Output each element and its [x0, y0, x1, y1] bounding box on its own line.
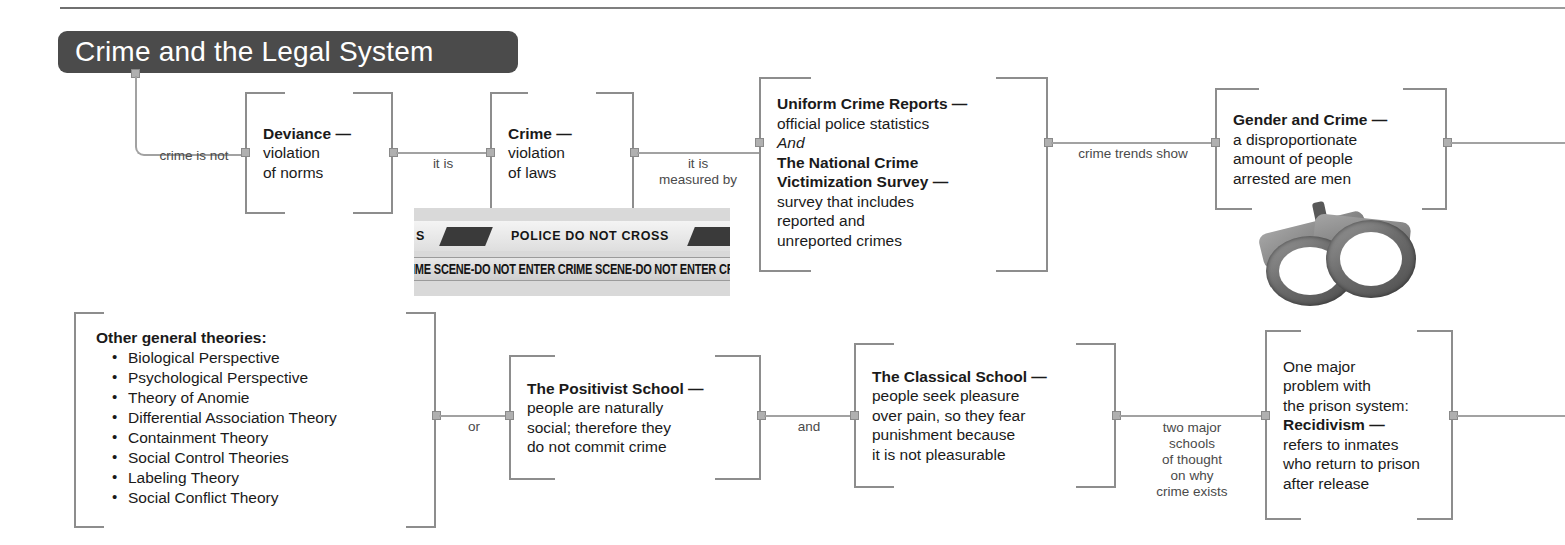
node-uniform-crime-reports[interactable]: Uniform Crime Reports — official police … — [759, 77, 1048, 272]
node-body: Deviance — violation of norms — [245, 92, 393, 214]
node-line: refers to inmates — [1283, 435, 1441, 455]
connector-label-two-major-line1: two major — [1119, 420, 1265, 436]
node-line: Victimization Survey — — [777, 172, 1036, 192]
connector-label-two-major-line4: on why — [1119, 468, 1265, 484]
connector-label-crime-is-not: crime is not — [146, 148, 242, 164]
node-line: the prison system: — [1283, 396, 1441, 416]
node-positivist-school[interactable]: The Positivist School — people are natur… — [509, 355, 761, 480]
node-gender-and-crime[interactable]: Gender and Crime — a disproportionate am… — [1215, 88, 1447, 210]
node-line: Recidivism — — [1283, 415, 1441, 435]
handcuff-right-opening — [1340, 232, 1402, 286]
connector-label-measured-by-line2: measured by — [637, 172, 759, 188]
connector-crime-to-ucr — [637, 152, 759, 154]
node-line: problem with — [1283, 376, 1441, 396]
connector-recidivism-exit-right — [1456, 415, 1565, 417]
node-line: who return to prison — [1283, 454, 1441, 474]
junction-node-deviance-left[interactable] — [241, 148, 250, 157]
node-deviance[interactable]: Deviance — violation of norms — [245, 92, 393, 214]
node-line: amount of people — [1233, 149, 1435, 169]
list-item: Labeling Theory — [112, 468, 424, 488]
crime-scene-tape-photo: S POLICE DO NOT CROSS P IME SCENE-DO NOT… — [414, 208, 730, 296]
junction-node-gender-left[interactable] — [1211, 138, 1220, 147]
page-title: Crime and the Legal System — [75, 38, 433, 66]
theories-list: Biological Perspective Psychological Per… — [96, 348, 424, 508]
connector-label-two-major-line2: schools — [1119, 436, 1265, 452]
theories-heading: Other general theories: — [96, 328, 424, 348]
connector-label-or: or — [439, 419, 509, 435]
tape-band-lower: IME SCENE-DO NOT ENTER CRIME SCENE-DO NO… — [414, 257, 730, 281]
node-line: unreported crimes — [777, 231, 1036, 251]
connector-label-it-is: it is — [396, 156, 490, 172]
connector-gender-exit-right — [1450, 142, 1565, 144]
node-line: And — [777, 133, 1036, 153]
node-line: Gender and Crime — — [1233, 110, 1435, 130]
connector-positivist-to-classical — [764, 415, 854, 417]
node-other-general-theories[interactable]: Other general theories: Biological Persp… — [74, 312, 436, 528]
node-body: Uniform Crime Reports — official police … — [759, 77, 1048, 272]
connector-label-two-major-line5: crime exists — [1119, 484, 1265, 500]
connector-ucr-to-gender — [1051, 142, 1215, 144]
node-body: Other general theories: Biological Persp… — [74, 312, 436, 528]
junction-node-crime-left[interactable] — [486, 148, 495, 157]
list-item: Theory of Anomie — [112, 388, 424, 408]
node-line: One major — [1283, 357, 1441, 377]
node-line: arrested are men — [1233, 169, 1435, 189]
list-item: Psychological Perspective — [112, 368, 424, 388]
node-line: violation — [263, 143, 381, 163]
connector-title-to-deviance — [135, 76, 247, 156]
tape-band-upper: S POLICE DO NOT CROSS P — [414, 221, 730, 251]
tape-text-left-fragment: S — [416, 229, 425, 243]
list-item: Containment Theory — [112, 428, 424, 448]
node-line: reported and — [777, 211, 1036, 231]
node-body: The Positivist School — people are natur… — [509, 355, 761, 480]
list-item: Differential Association Theory — [112, 408, 424, 428]
node-body: One major problem with the prison system… — [1265, 330, 1453, 520]
node-line: people are naturally — [527, 398, 749, 418]
connector-theories-to-positivist — [439, 415, 509, 417]
connector-classical-to-recidivism — [1119, 415, 1265, 417]
node-line: it is not pleasurable — [872, 445, 1104, 465]
list-item: Social Control Theories — [112, 448, 424, 468]
concept-map-canvas: Crime and the Legal System crime is not … — [0, 0, 1565, 545]
node-recidivism[interactable]: One major problem with the prison system… — [1265, 330, 1453, 520]
node-body: Crime — violation of laws — [490, 92, 634, 214]
node-line: over pain, so they fear — [872, 406, 1104, 426]
node-line: The Classical School — — [872, 367, 1104, 387]
node-line: violation — [508, 143, 622, 163]
node-line: survey that includes — [777, 192, 1036, 212]
node-body: The Classical School — people seek pleas… — [854, 343, 1116, 488]
node-line: people seek pleasure — [872, 386, 1104, 406]
connector-label-measured-by-line1: it is — [637, 156, 759, 172]
junction-node-positivist-left[interactable] — [505, 411, 514, 420]
junction-node-classical-left[interactable] — [850, 411, 859, 420]
junction-node-ucr-left[interactable] — [755, 138, 764, 147]
node-line: after release — [1283, 474, 1441, 494]
page-title-banner: Crime and the Legal System — [58, 31, 518, 73]
node-line: of norms — [263, 163, 381, 183]
connector-label-and: and — [764, 419, 854, 435]
tape-diamond-icon — [439, 227, 493, 246]
list-item: Biological Perspective — [112, 348, 424, 368]
tape-text-crime-scene-do-not-enter: IME SCENE-DO NOT ENTER CRIME SCENE-DO NO… — [414, 262, 730, 277]
tape-diamond-icon — [687, 227, 730, 246]
node-line: Deviance — — [263, 124, 381, 144]
list-item: Social Conflict Theory — [112, 488, 424, 508]
node-body: Gender and Crime — a disproportionate am… — [1215, 88, 1447, 210]
connector-label-crime-trends-show: crime trends show — [1051, 146, 1215, 162]
node-line: official police statistics — [777, 114, 1036, 134]
node-line: a disproportionate — [1233, 130, 1435, 150]
node-line: social; therefore they — [527, 418, 749, 438]
junction-node-recidivism-left[interactable] — [1261, 411, 1270, 420]
node-line: do not commit crime — [527, 437, 749, 457]
node-line: of laws — [508, 163, 622, 183]
page-top-rule — [60, 7, 1565, 9]
node-line: punishment because — [872, 425, 1104, 445]
tape-text-police-do-not-cross: POLICE DO NOT CROSS — [511, 229, 669, 243]
node-classical-school[interactable]: The Classical School — people seek pleas… — [854, 343, 1116, 488]
node-line: The National Crime — [777, 153, 1036, 173]
connector-deviance-to-crime — [396, 152, 490, 154]
handcuffs-photo — [1252, 200, 1422, 308]
connector-label-two-major-line3: of thought — [1119, 452, 1265, 468]
node-line: Uniform Crime Reports — — [777, 94, 1036, 114]
node-crime[interactable]: Crime — violation of laws — [490, 92, 634, 214]
